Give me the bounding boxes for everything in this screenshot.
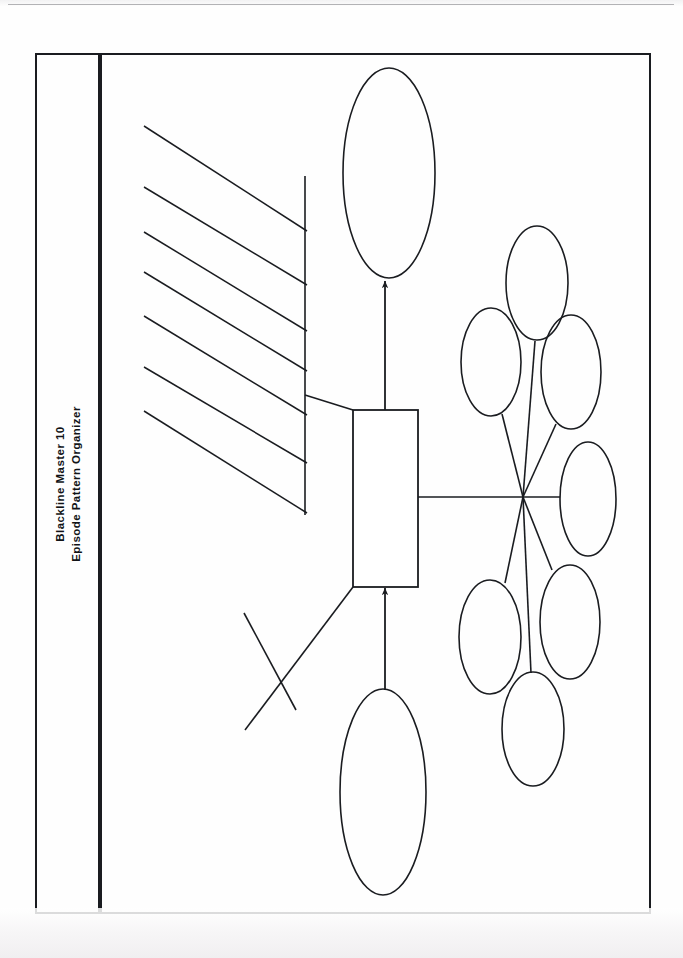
radial-ellipse-7 (502, 672, 564, 786)
spoke-5 (523, 497, 552, 570)
radial-ellipse-3 (541, 315, 601, 429)
crossed-leader-strike (244, 613, 296, 710)
writing-lines-group (144, 126, 307, 515)
spoke-2 (502, 414, 523, 497)
radial-ellipse-6 (459, 580, 521, 694)
writing-line-3 (144, 232, 307, 331)
writing-line-2 (144, 187, 307, 285)
radial-ellipse-4 (560, 442, 616, 556)
radial-ellipse-2 (461, 308, 521, 416)
writing-line-6 (144, 367, 307, 463)
spoke-6 (505, 497, 523, 583)
core-shapes-group (340, 68, 435, 895)
writing-line-4 (144, 272, 307, 371)
outcome-ellipse (343, 68, 435, 278)
writing-line-5 (144, 316, 307, 415)
upper-leader-line (305, 395, 353, 410)
writing-line-7 (144, 411, 307, 513)
worksheet-page: Blackline Master 10 Episode Pattern Orga… (0, 0, 683, 958)
organizer-artboard (0, 0, 683, 958)
spoke-7 (523, 497, 531, 673)
central-episode-box (353, 410, 418, 587)
initiating-event-ellipse (340, 689, 426, 895)
radial-ellipse-1 (506, 226, 568, 340)
crossed-leader-line (245, 587, 353, 730)
radial-cluster-group (459, 226, 616, 786)
writing-line-1 (144, 126, 307, 231)
radial-ellipse-5 (540, 565, 600, 679)
